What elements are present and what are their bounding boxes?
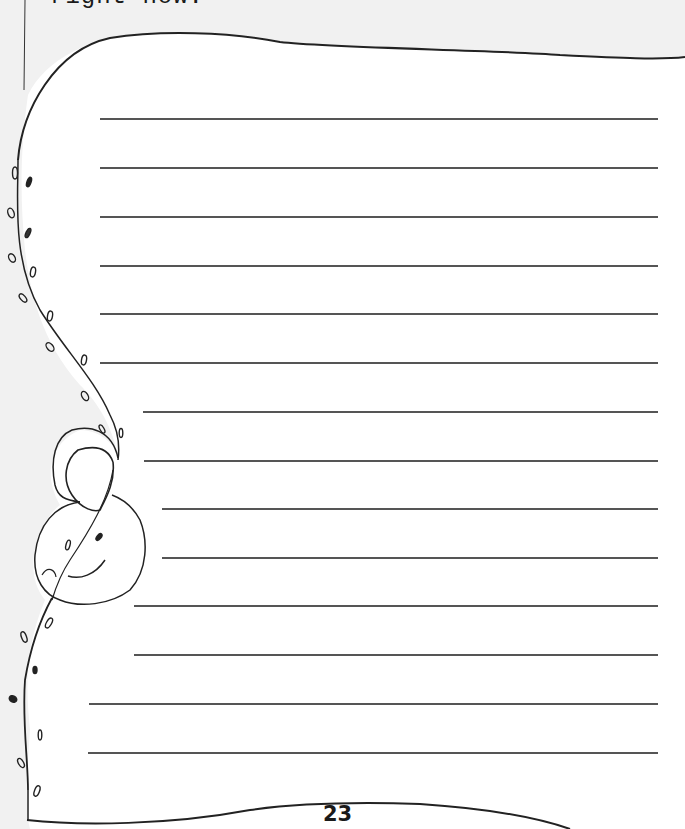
writing-line — [143, 411, 658, 413]
page-number-container: 23 — [0, 802, 685, 826]
writing-line — [162, 508, 658, 510]
writing-line — [134, 654, 658, 656]
page-number: 23 — [323, 802, 352, 826]
writing-line — [89, 703, 658, 705]
writing-line — [88, 752, 658, 754]
writing-line — [134, 605, 658, 607]
writing-line — [100, 265, 658, 267]
writing-line — [144, 460, 658, 462]
writing-line — [100, 216, 658, 218]
writing-line — [100, 313, 658, 315]
writing-line — [162, 557, 658, 559]
writing-lines — [0, 0, 685, 829]
writing-line — [100, 167, 658, 169]
writing-line — [100, 362, 658, 364]
writing-line — [100, 118, 658, 120]
